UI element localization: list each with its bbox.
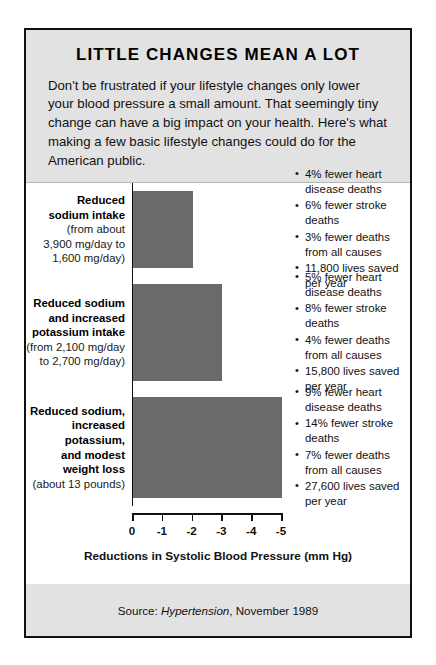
row-label-sub: (from 2,100 mg/dayto 2,700 mg/day): [26, 340, 125, 369]
infographic-poster: LITTLE CHANGES MEAN A LOT Don't be frust…: [24, 28, 412, 638]
source-note: Source: Hypertension, November 1989: [118, 604, 318, 617]
axis-tick-label: -4: [246, 524, 256, 537]
bullet-item: 14% fewer stroke deaths: [295, 416, 410, 446]
axis-title: Reductions in Systolic Blood Pressure (m…: [26, 549, 410, 563]
row-label-main: Reducedsodium intake: [26, 193, 125, 222]
chart-row: Reducedsodium intake(from about3,900 mg/…: [26, 183, 410, 276]
bullet-item: 27,600 lives saved per year: [295, 479, 410, 509]
chart-rows: Reducedsodium intake(from about3,900 mg/…: [26, 183, 410, 506]
bullet-item: 7% fewer deaths from all causes: [295, 448, 410, 478]
axis-line: [132, 513, 281, 515]
intro-paragraph: Don't be frustrated if your lifestyle ch…: [46, 77, 390, 171]
chart-row: Reduced sodiumand increasedpotassium int…: [26, 276, 410, 389]
row-label-main: Reduced sodium,increasedpotassium,and mo…: [26, 404, 125, 477]
chart-bar: [133, 284, 222, 381]
bullet-item: 4% fewer deaths from all causes: [295, 333, 410, 363]
row-bullets: 9% fewer heart disease deaths14% fewer s…: [286, 389, 410, 506]
plot-cell: [132, 276, 286, 389]
bullet-item: 6% fewer stroke deaths: [295, 198, 410, 228]
bullet-item: 8% fewer stroke deaths: [295, 301, 410, 331]
row-label: Reducedsodium intake(from about3,900 mg/…: [26, 183, 132, 276]
page-title: LITTLE CHANGES MEAN A LOT: [46, 46, 390, 65]
row-label: Reduced sodium,increasedpotassium,and mo…: [26, 389, 132, 506]
row-label-main: Reduced sodiumand increasedpotassium int…: [26, 296, 125, 340]
plot-cell: [132, 389, 286, 506]
source-prefix: Source:: [118, 604, 161, 617]
row-label-sub: (about 13 pounds): [26, 477, 125, 492]
source-suffix: , November 1989: [229, 604, 318, 617]
axis-tick: [281, 513, 283, 521]
poster-header: LITTLE CHANGES MEAN A LOT Don't be frust…: [26, 30, 410, 170]
poster-footer: Source: Hypertension, November 1989: [26, 584, 410, 636]
axis-tick-label: -5: [276, 524, 286, 537]
axis-tick: [192, 513, 194, 521]
row-label-sub: (from about3,900 mg/day to1,600 mg/day): [26, 222, 125, 266]
axis-tick-label: -1: [157, 524, 167, 537]
bullet-item: 5% fewer heart disease deaths: [295, 270, 410, 300]
axis-tick: [162, 513, 164, 521]
chart-panel: Reducedsodium intake(from about3,900 mg/…: [26, 182, 410, 590]
row-bullets: 4% fewer heart disease deaths6% fewer st…: [286, 183, 410, 276]
source-journal: Hypertension: [161, 604, 229, 617]
bullet-item: 4% fewer heart disease deaths: [295, 167, 410, 197]
row-bullets: 5% fewer heart disease deaths8% fewer st…: [286, 276, 410, 389]
chart-bar: [133, 191, 193, 268]
axis-tick: [251, 513, 253, 521]
axis-tick: [221, 513, 223, 521]
chart-row: Reduced sodium,increasedpotassium,and mo…: [26, 389, 410, 506]
row-label: Reduced sodiumand increasedpotassium int…: [26, 276, 132, 389]
chart-bar: [133, 397, 282, 498]
chart-axis: 0-1-2-3-4-5 Reductions in Systolic Blood…: [26, 513, 410, 589]
bullet-item: 9% fewer heart disease deaths: [295, 385, 410, 415]
axis-tick-label: -2: [186, 524, 196, 537]
axis-tick: [132, 513, 134, 521]
bullet-item: 3% fewer deaths from all causes: [295, 230, 410, 260]
plot-cell: [132, 183, 286, 276]
axis-tick-label: -3: [216, 524, 226, 537]
axis-tick-label: 0: [129, 524, 135, 537]
